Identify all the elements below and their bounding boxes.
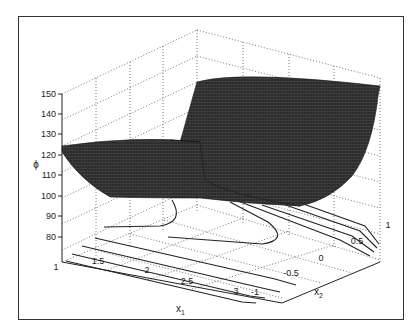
z-tick-100: 100 [41,191,56,201]
z-tick-150: 150 [41,89,56,99]
x2-tick-neg0.5: -0.5 [283,268,299,278]
x1-tick-1: 1 [53,262,58,272]
x2-tick-1: 1 [385,220,390,230]
x2-tick-neg1: -1 [251,287,259,297]
z-axis-label: ϕ [33,159,39,170]
x1-tick-1.5: 1.5 [92,256,105,266]
floor-contours [66,196,379,303]
z-axis-ticks: 150 140 130 120 110 100 90 80 [41,89,62,242]
z-tick-80: 80 [46,232,56,242]
x1-tick-3: 3 [233,286,238,296]
x2-tick-0.5: 0.5 [351,236,364,246]
z-tick-110: 110 [42,170,56,180]
surface-plot: 150 140 130 120 110 100 90 80 1 1.5 2 2.… [0,0,419,335]
x2-tick-0: 0 [318,253,323,263]
x1-tick-2: 2 [144,265,149,275]
mesh-surface [62,77,380,206]
z-tick-90: 90 [46,211,56,221]
z-tick-130: 130 [41,129,56,139]
x1-axis-label: x1 [176,303,185,316]
z-tick-140: 140 [41,109,56,119]
x2-axis-label: x2 [314,286,323,299]
z-tick-120: 120 [41,150,56,160]
x1-tick-2.5: 2.5 [181,276,194,286]
